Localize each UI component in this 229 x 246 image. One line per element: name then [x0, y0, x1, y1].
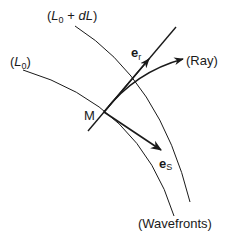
point-m-label: M: [84, 108, 95, 123]
wavefront-outer-label: (L0 + dL): [47, 8, 97, 25]
wavefronts-label: (Wavefronts): [138, 216, 212, 231]
ray-arrow: [104, 59, 183, 112]
ray-label: (Ray): [186, 53, 218, 68]
wavefront-ray-diagram: (L0 + dL) (L0) M er (Ray) eS (Wavefronts…: [0, 0, 229, 246]
wavefront-inner-label: (L0): [10, 54, 31, 71]
e-r-label: er: [131, 45, 141, 62]
e-s-arrow: [104, 112, 161, 150]
e-s-label: eS: [159, 156, 172, 172]
